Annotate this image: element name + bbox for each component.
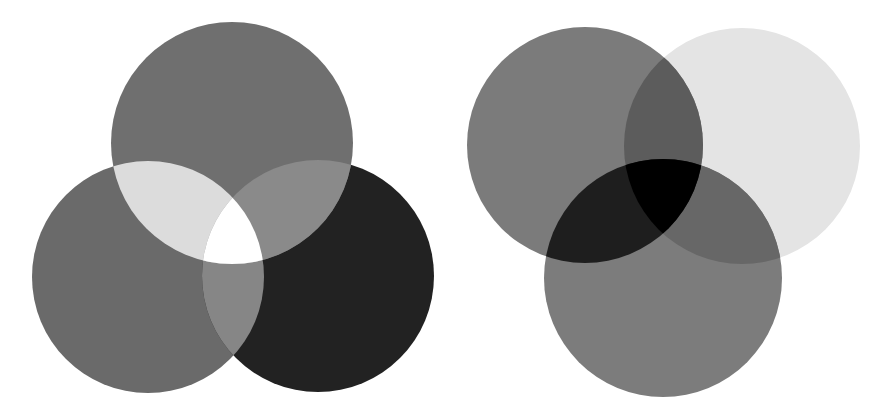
additive-color-diagram (32, 22, 434, 393)
overlapping-circles-canvas (0, 0, 894, 418)
subtractive-color-diagram (467, 27, 860, 397)
diagram-stage (0, 0, 894, 418)
